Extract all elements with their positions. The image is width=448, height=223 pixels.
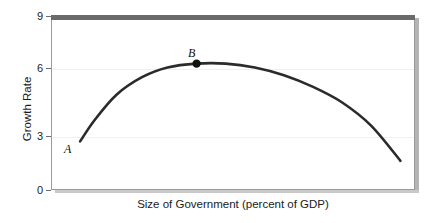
point-a-label: A: [64, 142, 71, 157]
chart-figure: 9 6 3 0 Growth Rate A B Size of Governme…: [0, 0, 448, 223]
growth-rate-curve: [80, 63, 400, 161]
point-b-label: B: [188, 46, 195, 61]
x-axis-title: Size of Government (percent of GDP): [51, 198, 415, 210]
growth-rate-curve-svg: [0, 0, 448, 223]
